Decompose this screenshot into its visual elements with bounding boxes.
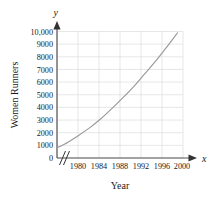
y-tick-label: 5000 [37,91,53,100]
y-tick-label: 1000 [37,141,53,150]
y-tick-label: 6000 [37,78,53,87]
y-tick-label-zero: 0 [49,154,53,163]
y-axis-title: Women Runners [9,62,20,129]
y-tick-label: 3000 [37,116,53,125]
x-tick-label: 1988 [112,162,128,171]
x-axis-variable-label: x [201,153,207,164]
y-tick-label: 7000 [37,66,53,75]
x-tick-label: 1984 [91,162,107,171]
x-tick-label: 1992 [133,162,149,171]
x-tick-label: 2000 [174,162,190,171]
x-tick-label: 1996 [154,162,170,171]
women-runners-line-chart: 10,000 9000 8000 7000 6000 5000 4000 300… [0,0,219,211]
y-axis-variable-label: y [53,7,59,18]
y-tick-label: 8000 [37,53,53,62]
x-axis-title: Year [111,180,130,191]
y-tick-label: 10,000 [30,28,53,37]
y-tick-label: 4000 [37,103,53,112]
chart-container: 10,000 9000 8000 7000 6000 5000 4000 300… [0,0,219,211]
y-tick-label: 9000 [37,40,53,49]
y-tick-label: 2000 [37,129,53,138]
x-tick-label: 1980 [70,162,86,171]
